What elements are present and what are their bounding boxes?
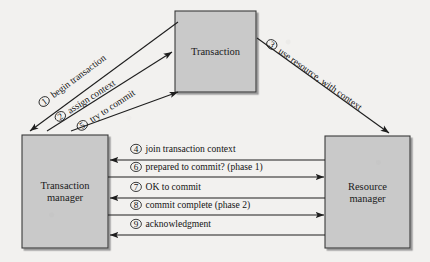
edge-label-group-4: 4join transaction context: [131, 143, 236, 154]
step-number-7: 7: [134, 182, 139, 192]
step-number-9: 9: [134, 219, 139, 229]
edge-label-text-3: use resource, with context: [277, 45, 365, 112]
edge-label-text-6: prepared to commit? (phase 1): [146, 161, 263, 173]
node-transaction-manager[interactable]: Transaction manager: [22, 135, 108, 248]
edge-4-join-transaction-context[interactable]: 4join transaction context: [110, 143, 325, 160]
edge-label-text-9: acknowledgment: [146, 218, 212, 229]
transaction-manager-box-label-line-0: Transaction: [40, 180, 90, 191]
resource-manager-box-label-line-1: manager: [349, 193, 386, 204]
edge-6-prepared-to-commit-phase-1[interactable]: 6prepared to commit? (phase 1): [108, 161, 324, 177]
transaction-manager-box-label-line-1: manager: [47, 192, 84, 203]
edge-label-group-3: 3use resource, with context: [264, 37, 364, 113]
step-number-4: 4: [134, 144, 139, 154]
diagram-canvas: Transaction Transaction manager Resource…: [0, 0, 430, 262]
resource-manager-box-label-line-0: Resource: [348, 181, 387, 192]
transaction-flow-diagram: Transaction Transaction manager Resource…: [0, 0, 430, 262]
edge-label-text-8: commit complete (phase 2): [146, 199, 251, 211]
edge-3-use-resource-with-context[interactable]: 3use resource, with context: [257, 37, 389, 133]
edge-label-group-8: 8commit complete (phase 2): [131, 199, 251, 211]
edge-label-text-4: join transaction context: [145, 143, 236, 154]
edge-label-text-7: OK to commit: [146, 181, 202, 192]
edge-label-group-6: 6prepared to commit? (phase 1): [131, 161, 263, 173]
edge-8-commit-complete-phase-2[interactable]: 8commit complete (phase 2): [108, 199, 324, 215]
edge-label-group-7: 7OK to commit: [131, 181, 202, 192]
step-number-8: 8: [134, 200, 139, 210]
transaction-box-label-line-0: Transaction: [191, 46, 241, 57]
node-resource-manager[interactable]: Resource manager: [325, 136, 410, 248]
node-transaction[interactable]: Transaction: [175, 11, 256, 92]
edge-9-acknowledgment[interactable]: 9acknowledgment: [110, 218, 325, 235]
edge-7-ok-to-commit[interactable]: 7OK to commit: [110, 181, 325, 198]
edge-label-group-9: 9acknowledgment: [131, 218, 212, 229]
step-number-6: 6: [134, 162, 139, 172]
